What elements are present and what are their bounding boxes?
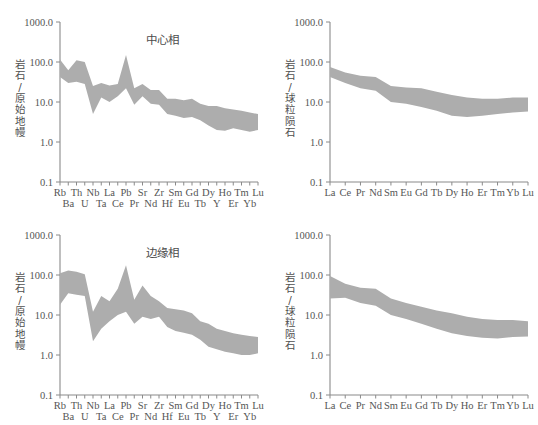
y-tick-label: 1.0 xyxy=(310,350,323,361)
y-tick-label: 0.1 xyxy=(40,390,53,401)
data-band-bottom-left xyxy=(60,265,258,355)
panel-bottom-right: 1000.0100.010.01.00.1LaCePrNdSmEuGdTbDyH… xyxy=(270,213,538,425)
y-axis-title-char: 原 xyxy=(15,305,25,317)
x-tick-label: Rb xyxy=(54,187,66,198)
x-tick-label: Lu xyxy=(252,187,264,198)
x-tick-label: Dy xyxy=(202,187,216,198)
x-tick-label: Sr xyxy=(138,400,148,411)
x-tick-label: La xyxy=(324,187,335,198)
y-axis-title-char: / xyxy=(18,81,22,93)
y-axis-title-char: 石 xyxy=(285,282,295,294)
x-tick-label: Tb xyxy=(431,400,443,411)
x-tick-label: Ba xyxy=(62,198,74,209)
panel-top-right: 1000.0100.010.01.00.1LaCePrNdSmEuGdTbDyH… xyxy=(270,0,538,212)
y-tick-label: 0.1 xyxy=(40,177,53,188)
data-band-top-left xyxy=(60,55,258,132)
x-tick-label: Gd xyxy=(415,400,429,411)
y-tick-label: 1000.0 xyxy=(24,230,53,241)
y-axis-title-char: 始 xyxy=(15,316,26,328)
x-tick-label: Nb xyxy=(87,400,100,411)
y-axis-title-char: / xyxy=(18,294,22,306)
x-tick-label: Ce xyxy=(339,400,351,411)
x-tick-label: Pb xyxy=(120,400,131,411)
x-tick-label: Sm xyxy=(384,187,398,198)
panel-top-left: 1000.0100.010.01.00.1RbThNbLaPbSrZrSmGdD… xyxy=(0,0,268,212)
x-tick-label: Er xyxy=(477,400,487,411)
y-tick-label: 100.0 xyxy=(29,57,53,68)
y-axis-title-char: 石 xyxy=(285,339,295,351)
x-tick-label: Dy xyxy=(445,187,459,198)
x-tick-label: Th xyxy=(71,187,83,198)
x-tick-label: Yb xyxy=(506,400,519,411)
y-axis-title-char: 陨 xyxy=(285,328,296,340)
x-tick-label: Nd xyxy=(369,400,383,411)
x-tick-label: Hf xyxy=(162,198,174,209)
x-tick-label: La xyxy=(324,400,335,411)
x-tick-label: Ce xyxy=(339,187,351,198)
x-tick-label: Sr xyxy=(138,187,148,198)
x-tick-label: Hf xyxy=(162,411,174,422)
panel-title: 中心相 xyxy=(146,33,179,47)
y-tick-label: 1000.0 xyxy=(294,230,323,241)
chart-bottom-left: 1000.0100.010.01.00.1RbThNbLaPbSrZrSmGdD… xyxy=(0,213,268,425)
x-tick-label: Yb xyxy=(506,187,519,198)
x-tick-label: Ho xyxy=(219,187,232,198)
x-tick-label: Tm xyxy=(234,400,249,411)
y-tick-label: 10.0 xyxy=(35,310,53,321)
x-tick-label: Y xyxy=(213,198,221,209)
x-tick-label: Tb xyxy=(431,187,443,198)
x-tick-label: Sm xyxy=(168,187,182,198)
y-tick-label: 10.0 xyxy=(305,97,323,108)
x-tick-label: Yb xyxy=(243,411,256,422)
y-axis-title-char: 石 xyxy=(15,282,25,294)
y-axis-title-char: 石 xyxy=(285,69,295,81)
y-tick-label: 1000.0 xyxy=(24,17,53,28)
x-tick-label: Zr xyxy=(154,400,164,411)
x-tick-label: Ce xyxy=(112,411,124,422)
x-tick-label: Yb xyxy=(243,198,256,209)
x-tick-label: Pb xyxy=(120,187,131,198)
x-tick-label: Dy xyxy=(445,400,459,411)
x-tick-label: Ta xyxy=(96,411,107,422)
y-axis-title: 岩石/原始地幔 xyxy=(15,58,26,138)
y-axis-title-char: 球 xyxy=(285,305,296,317)
y-axis-title-char: 岩 xyxy=(15,58,25,70)
y-tick-label: 0.1 xyxy=(310,390,323,401)
x-tick-label: La xyxy=(104,400,115,411)
x-tick-label: Ho xyxy=(461,400,474,411)
x-tick-label: Eu xyxy=(178,411,190,422)
y-tick-label: 100.0 xyxy=(299,57,323,68)
y-tick-label: 1000.0 xyxy=(294,17,323,28)
x-tick-label: U xyxy=(81,411,89,422)
x-tick-label: Nd xyxy=(144,411,158,422)
y-tick-label: 10.0 xyxy=(35,97,53,108)
x-tick-label: Sm xyxy=(168,400,182,411)
y-axis-title-char: / xyxy=(288,294,292,306)
x-tick-label: Gd xyxy=(186,187,200,198)
y-axis-title-char: 陨 xyxy=(285,115,296,127)
x-tick-label: Pr xyxy=(130,198,140,209)
y-axis-title: 岩石/原始地幔 xyxy=(15,271,26,351)
y-tick-label: 10.0 xyxy=(305,310,323,321)
y-tick-label: 1.0 xyxy=(40,137,53,148)
x-tick-label: Gd xyxy=(186,400,200,411)
y-axis-title-char: 岩 xyxy=(15,271,25,283)
x-tick-label: Rb xyxy=(54,400,66,411)
panel-bottom-left: 1000.0100.010.01.00.1RbThNbLaPbSrZrSmGdD… xyxy=(0,213,268,425)
x-tick-label: U xyxy=(81,198,89,209)
y-axis-title-char: 粒 xyxy=(285,316,296,328)
y-axis-title-char: 粒 xyxy=(285,103,296,115)
y-axis-title-char: / xyxy=(288,81,292,93)
x-tick-label: Lu xyxy=(522,187,534,198)
x-tick-label: Sm xyxy=(384,400,398,411)
y-axis-title-char: 石 xyxy=(15,69,25,81)
y-tick-label: 100.0 xyxy=(29,270,53,281)
data-band-top-right xyxy=(330,67,528,117)
x-tick-label: Tb xyxy=(194,198,206,209)
y-axis-title-char: 球 xyxy=(285,92,296,104)
x-tick-label: Zr xyxy=(154,187,164,198)
x-tick-label: Eu xyxy=(400,400,412,411)
y-tick-label: 100.0 xyxy=(299,270,323,281)
x-tick-label: Ce xyxy=(112,198,124,209)
figure-root: 1000.0100.010.01.00.1RbThNbLaPbSrZrSmGdD… xyxy=(0,0,538,425)
